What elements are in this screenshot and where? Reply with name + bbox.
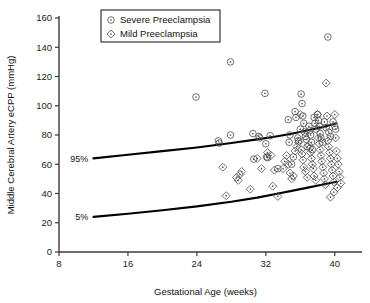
y-axis-title: Middle Cerebral Artery eCPP (mmHg) [5, 56, 16, 215]
y-tick-label: 20 [41, 217, 52, 228]
reference-curve-5pct [93, 182, 336, 217]
legend-label-0: Severe Preeclampsia [120, 14, 211, 25]
curve-label: 95% [70, 154, 88, 164]
curve-label: 5% [75, 212, 88, 222]
x-tick-label: 24 [192, 258, 203, 269]
x-tick-label: 8 [56, 258, 61, 269]
y-tick-label: 60 [41, 159, 52, 170]
y-tick-label: 40 [41, 188, 52, 199]
x-tick-label: 32 [261, 258, 272, 269]
scatter-plot-svg: 020406080100120140160816243240Gestationa… [0, 0, 370, 303]
x-tick-label: 16 [123, 258, 134, 269]
legend-label-1: Mild Preeclampsia [120, 28, 198, 39]
x-axis-title: Gestational Age (weeks) [154, 286, 257, 297]
chart-figure: 020406080100120140160816243240Gestationa… [0, 0, 370, 303]
y-tick-label: 0 [47, 246, 52, 257]
x-tick-label: 40 [329, 258, 340, 269]
y-tick-label: 80 [41, 129, 52, 140]
series-severe-preeclampsia [193, 34, 339, 172]
y-tick-label: 120 [36, 71, 52, 82]
y-tick-label: 140 [36, 42, 52, 53]
y-tick-label: 160 [36, 12, 52, 23]
y-tick-label: 100 [36, 100, 52, 111]
